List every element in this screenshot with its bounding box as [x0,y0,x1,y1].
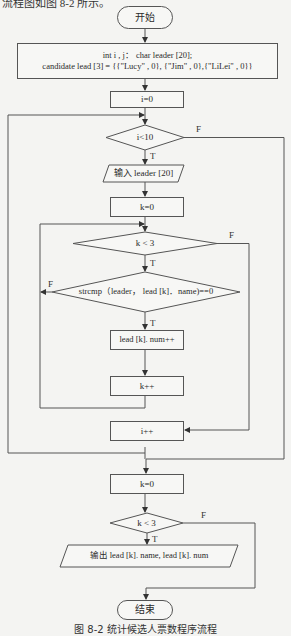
i-condition-true-label: T [150,151,156,161]
i-condition-false-label: F [196,124,201,134]
output-parallelogram: 输出 lead [k]. name, lead [k]. num [60,545,238,567]
strcmp-condition-label: strcmp（leader， lead [k]．name)==0 [79,286,213,297]
k-condition-diamond: k < 3 [73,232,217,255]
k-init-box-2: k=0 [110,474,184,494]
output-label: 输出 lead [k]. name, lead [k]. num [90,550,209,561]
input-parallelogram: 输入 leader [20] [103,165,184,182]
i-condition-diamond: i<10 [106,125,184,150]
declaration-line-2: candidate lead [3] = {{"Lucy" , 0}, {"Ji… [42,61,252,72]
k-condition-true-label: T [150,258,156,268]
k-condition-label-2: k < 3 [137,517,156,529]
i-increment-label: i++ [141,425,154,437]
declaration-box: int i , j： char leader [20]; candidate l… [17,43,278,79]
strcmp-true-label: T [150,318,156,328]
strcmp-condition-diamond: strcmp（leader， lead [k]．name)==0 [52,272,240,312]
i-init-label: i=0 [141,93,153,105]
k-init-label: k=0 [140,201,154,213]
num-increment-box: lead [k]. num++ [110,330,184,350]
start-terminal: 开始 [117,6,173,29]
k-condition-false-label: F [229,230,234,240]
k-init-label-2: k=0 [140,478,154,490]
declaration-line-1: int i , j： char leader [20]; [103,50,192,61]
k-increment-label: k++ [140,380,155,392]
i-condition-label: i<10 [137,131,154,143]
i-init-box: i=0 [110,91,184,108]
k-condition-2-false-label: F [201,510,206,520]
k-increment-box: k++ [110,376,184,396]
k-condition-2-true-label: T [152,534,158,544]
input-label: 输入 leader [20] [114,167,173,179]
num-increment-label: lead [k]. num++ [119,334,174,345]
strcmp-false-label: F [48,279,53,289]
k-condition-diamond-2: k < 3 [110,513,183,533]
k-init-box: k=0 [110,197,184,217]
i-increment-box: i++ [110,421,184,441]
k-condition-label: k < 3 [136,237,155,249]
end-label: 结束 [135,603,155,617]
start-label: 开始 [135,11,155,25]
figure-caption: 图 8-2 统计候选人票数程序流程 [0,621,291,636]
end-terminal: 结束 [117,600,173,620]
